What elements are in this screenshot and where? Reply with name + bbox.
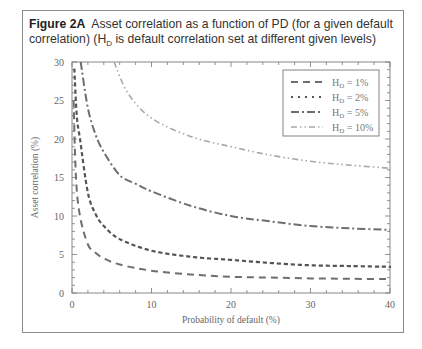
x-tick-label: 20: [226, 299, 236, 310]
y-tick-label: 0: [59, 288, 64, 299]
x-tick-label: 10: [147, 299, 157, 310]
x-tick-label: 40: [385, 299, 395, 310]
x-tick-label: 0: [70, 299, 75, 310]
x-axis-title: Probability of default (%): [182, 315, 280, 326]
x-tick-label: 30: [306, 299, 316, 310]
y-tick-label: 10: [54, 211, 64, 222]
chart-svg: 010203040051015202530Probability of defa…: [0, 0, 422, 349]
y-tick-label: 30: [54, 57, 64, 68]
y-tick-label: 20: [54, 134, 64, 145]
y-tick-label: 25: [54, 95, 64, 106]
y-axis-title: Asset correlation (%): [30, 137, 41, 218]
y-tick-label: 15: [54, 172, 64, 183]
y-tick-label: 5: [59, 249, 64, 260]
legend: HD = 1%HD = 2%HD = 5%HD = 10%: [283, 70, 379, 136]
